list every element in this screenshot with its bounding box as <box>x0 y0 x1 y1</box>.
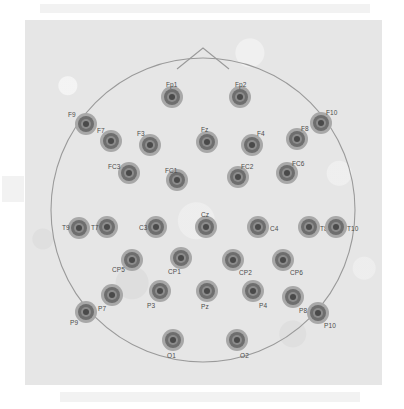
head-outline-svg <box>25 20 382 385</box>
electrode-label-f8: F8 <box>301 126 309 133</box>
electrode-label-o2: O2 <box>240 353 249 360</box>
electrode-label-cz: Cz <box>201 212 209 219</box>
electrode-core <box>249 142 255 148</box>
electrode-label-f3: F3 <box>137 131 145 138</box>
electrode-core <box>318 120 324 126</box>
electrode-label-f10: F10 <box>326 110 338 117</box>
electrode-label-t10: T10 <box>347 226 359 233</box>
electrode-core <box>108 138 114 144</box>
electrode-label-o1: O1 <box>167 353 176 360</box>
electrode-core <box>153 224 159 230</box>
electrode-p9[interactable] <box>75 301 97 323</box>
electrode-core <box>157 288 163 294</box>
electrode-label-cp2: CP2 <box>239 270 252 277</box>
electrode-label-fc1: FC1 <box>165 168 178 175</box>
electrode-core <box>83 121 89 127</box>
electrode-fc3[interactable] <box>118 162 140 184</box>
electrode-core <box>76 225 82 231</box>
electrode-label-p8: P8 <box>299 308 307 315</box>
electrode-t10[interactable] <box>325 216 347 238</box>
electrode-core <box>284 170 290 176</box>
electrode-label-fp1: Fp1 <box>166 82 178 89</box>
electrode-pz[interactable] <box>196 280 218 302</box>
electrode-t8[interactable] <box>298 216 320 238</box>
electrode-core <box>129 257 135 263</box>
electrode-core <box>109 292 115 298</box>
electrode-core <box>169 94 175 100</box>
electrode-cp6[interactable] <box>272 249 294 271</box>
electrode-label-cp6: CP6 <box>290 270 303 277</box>
electrode-f9[interactable] <box>75 113 97 135</box>
electrode-label-p10: P10 <box>324 323 336 330</box>
electrode-label-cp1: CP1 <box>168 269 181 276</box>
electrode-core <box>290 294 296 300</box>
electrode-fz[interactable] <box>196 131 218 153</box>
electrode-p3[interactable] <box>149 280 171 302</box>
scan-smudge-left <box>2 176 24 202</box>
electrode-core <box>230 257 236 263</box>
electrode-core <box>333 224 339 230</box>
electrode-p10[interactable] <box>307 302 329 324</box>
electrode-label-p9: P9 <box>70 320 78 327</box>
electrode-label-pz: Pz <box>201 304 209 311</box>
electrode-p4[interactable] <box>242 280 264 302</box>
electrode-core <box>170 337 176 343</box>
electrode-core <box>235 174 241 180</box>
electrode-label-t7: T7 <box>91 225 99 232</box>
electrode-label-fp2: Fp2 <box>235 82 247 89</box>
electrode-core <box>174 177 180 183</box>
electrode-core <box>83 309 89 315</box>
electrode-core <box>126 170 132 176</box>
electrode-t7[interactable] <box>96 216 118 238</box>
electrode-label-fz: Fz <box>201 127 208 134</box>
electrode-o1[interactable] <box>162 329 184 351</box>
electrode-label-p4: P4 <box>259 303 267 310</box>
electrode-t9[interactable] <box>68 217 90 239</box>
electrode-core <box>203 224 209 230</box>
electrode-core <box>178 255 184 261</box>
electrode-core <box>315 310 321 316</box>
electrode-core <box>204 288 210 294</box>
electrode-fp2[interactable] <box>229 86 251 108</box>
electrode-label-f9: F9 <box>68 112 76 119</box>
electrode-p7[interactable] <box>101 284 123 306</box>
electrode-p8[interactable] <box>282 286 304 308</box>
electrode-label-c3: C3 <box>139 225 148 232</box>
electrode-label-fc3: FC3 <box>108 164 121 171</box>
electrode-cp1[interactable] <box>170 247 192 269</box>
electrode-label-c4: C4 <box>270 226 279 233</box>
electrode-label-fc2: FC2 <box>241 164 254 171</box>
electrode-c3[interactable] <box>145 216 167 238</box>
scan-smudge-top <box>40 4 370 13</box>
electrode-core <box>204 139 210 145</box>
electrode-core <box>255 224 261 230</box>
electrode-core <box>237 94 243 100</box>
electrode-core <box>104 224 110 230</box>
electrode-core <box>306 224 312 230</box>
electrode-label-f4: F4 <box>257 131 265 138</box>
electrode-label-p3: P3 <box>147 303 155 310</box>
electrode-label-f7: F7 <box>97 128 105 135</box>
electrode-core <box>234 337 240 343</box>
electrode-label-cp5: CP5 <box>112 267 125 274</box>
electrode-label-t9: T9 <box>62 225 70 232</box>
electrode-label-p7: P7 <box>98 306 106 313</box>
figure-panel: Fp1Fp2F9F7F3FzF4F8F10FC3FC1FC2FC6T9T7C3C… <box>25 20 382 385</box>
electrode-core <box>294 136 300 142</box>
scan-smudge-bottom <box>60 392 360 402</box>
electrode-core <box>250 288 256 294</box>
electrode-fp1[interactable] <box>161 86 183 108</box>
electrode-c4[interactable] <box>247 216 269 238</box>
electrode-core <box>280 257 286 263</box>
electrode-core <box>147 142 153 148</box>
electrode-cz[interactable] <box>195 216 217 238</box>
electrode-o2[interactable] <box>226 329 248 351</box>
electrode-label-fc6: FC6 <box>292 161 305 168</box>
eeg-montage-figure: Fp1Fp2F9F7F3FzF4F8F10FC3FC1FC2FC6T9T7C3C… <box>0 0 404 409</box>
electrode-cp2[interactable] <box>222 249 244 271</box>
